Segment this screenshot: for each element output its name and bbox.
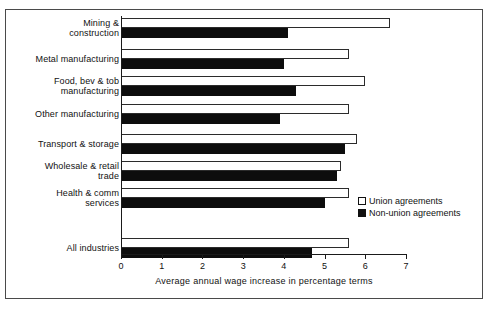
x-tick-label-5: 5 — [315, 261, 335, 271]
category-label-line: Food, bev & tob — [7, 76, 119, 87]
bar-nonunion-4 — [121, 144, 345, 154]
category-label-5: Wholesale & retailtrade — [7, 161, 119, 182]
x-tick-label-4: 4 — [274, 261, 294, 271]
x-tick-label-1: 1 — [152, 261, 172, 271]
bar-union-2 — [121, 76, 365, 86]
x-tick-label-2: 2 — [192, 261, 212, 271]
bar-nonunion-1 — [121, 59, 284, 69]
x-axis-line — [121, 254, 407, 255]
legend-label-nonunion: Non-union agreements — [369, 207, 461, 219]
bar-union-5 — [121, 161, 341, 171]
chart-figure: Mining &constructionMetal manufacturingF… — [0, 0, 491, 310]
category-label-line: Metal manufacturing — [7, 54, 119, 65]
bar-union-0 — [121, 18, 390, 28]
bar-nonunion-3 — [121, 114, 280, 124]
category-label-line: Transport & storage — [7, 139, 119, 150]
x-tick-4 — [284, 255, 285, 259]
category-label-group: Mining &constructionMetal manufacturingF… — [6, 16, 119, 254]
category-label-line: construction — [7, 28, 119, 39]
bar-nonunion-6 — [121, 198, 325, 208]
legend-item-nonunion: Non-union agreements — [358, 207, 461, 219]
x-tick-label-7: 7 — [396, 261, 416, 271]
category-label-6: Health & commservices — [7, 188, 119, 209]
category-label-line: Mining & — [7, 18, 119, 29]
bar-nonunion-5 — [121, 171, 337, 181]
bar-union-3 — [121, 104, 349, 114]
union-swatch-icon — [358, 197, 366, 205]
category-label-3: Other manufacturing — [7, 109, 119, 120]
bar-union-6 — [121, 188, 349, 198]
bar-union-4 — [121, 134, 357, 144]
category-label-line: Health & comm — [7, 188, 119, 199]
category-label-line: Other manufacturing — [7, 109, 119, 120]
bar-nonunion-2 — [121, 86, 296, 96]
x-tick-label-3: 3 — [233, 261, 253, 271]
legend-item-union: Union agreements — [358, 195, 461, 207]
clipped-title-strip — [0, 0, 491, 8]
category-label-4: Transport & storage — [7, 139, 119, 150]
category-label-line: manufacturing — [7, 86, 119, 97]
category-label-7: All industries — [7, 243, 119, 254]
category-label-line: trade — [7, 171, 119, 182]
bar-union-1 — [121, 49, 349, 59]
chart-legend: Union agreements Non-union agreements — [356, 194, 463, 220]
x-axis-label: Average annual wage increase in percenta… — [121, 276, 407, 286]
category-label-0: Mining &construction — [7, 18, 119, 39]
x-tick-0 — [121, 255, 122, 259]
category-label-1: Metal manufacturing — [7, 54, 119, 65]
nonunion-swatch-icon — [358, 209, 366, 217]
x-tick-7 — [406, 255, 407, 259]
x-tick-label-6: 6 — [355, 261, 375, 271]
category-label-line: All industries — [7, 243, 119, 254]
bar-union-7 — [121, 238, 349, 248]
category-label-line: services — [7, 198, 119, 209]
bar-nonunion-0 — [121, 28, 288, 38]
x-tick-1 — [162, 255, 163, 259]
category-label-line: Wholesale & retail — [7, 161, 119, 172]
x-tick-6 — [365, 255, 366, 259]
x-tick-label-0: 0 — [111, 261, 131, 271]
category-label-2: Food, bev & tobmanufacturing — [7, 76, 119, 97]
x-tick-2 — [202, 255, 203, 259]
x-tick-5 — [325, 255, 326, 259]
legend-label-union: Union agreements — [369, 195, 443, 207]
x-tick-3 — [243, 255, 244, 259]
y-axis-line — [121, 16, 122, 255]
